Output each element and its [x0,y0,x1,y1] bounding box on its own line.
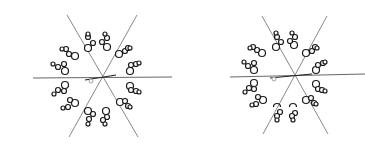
atom-circle [315,46,319,50]
atom-circle [129,63,134,68]
atom-circle [316,63,321,68]
atom-circle [62,62,67,67]
atom-circle [56,88,61,93]
atom-circle [275,118,279,122]
atom-circle [323,60,327,64]
atom-circle [116,51,123,58]
atom-circle [248,46,252,50]
atom-circle [103,108,110,115]
atom-circle [314,102,318,106]
atom-circle [62,82,69,89]
atom-circle [91,41,96,46]
atom-circle [137,61,141,65]
atom-circle [67,52,72,57]
atom-circle [62,89,67,94]
atom-circle [251,80,258,87]
atom-circle [243,90,247,94]
atom-circle [274,31,278,35]
atom-circle [103,122,107,126]
atom-circle [52,92,56,96]
symmetry-diagram [0,0,365,150]
atom-circle [123,99,128,104]
atom-circle [62,68,69,75]
center-ghost-atom [89,79,93,83]
atom-circle [72,53,79,60]
atom-circle [87,117,92,122]
atom-circle [247,86,252,91]
atom-circle [61,106,65,110]
atom-circle [128,46,132,50]
atom-circle [288,39,293,44]
atom-circle [91,112,96,117]
atom-circle [290,31,294,35]
atom-circle [250,103,254,107]
atom-circle [60,47,64,51]
atom-circle [103,32,107,36]
atom-circle [56,65,61,70]
atom-circle [86,122,90,126]
atom-circle [128,105,132,109]
center-ghost-atom [272,77,276,81]
atom-circle [242,60,246,64]
atom-circle [279,40,284,45]
atom-circle [252,61,257,66]
atom-circle [303,50,310,57]
atom-circle [137,90,141,94]
atom-circle [323,89,327,93]
atom-circle [246,64,251,69]
atom-circle [273,44,280,51]
atom-circle [68,98,73,103]
atom-circle [104,44,111,51]
atom-circle [129,88,134,93]
atom-circle [86,32,90,36]
atom-circle [66,105,71,110]
atom-circle [100,40,105,45]
atom-circle [256,95,261,100]
atom-circle [85,45,92,52]
atom-circle [309,96,314,101]
atom-circle [127,68,134,75]
atom-circle [252,87,257,92]
atom-circle [291,118,295,122]
atom-circle [51,62,55,66]
atom-circle [251,67,258,74]
